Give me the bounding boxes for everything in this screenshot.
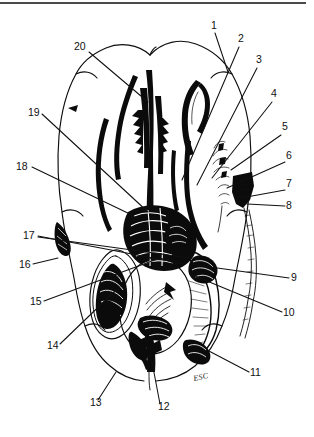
leader-line-16 [33,258,58,264]
leader-line-10 [190,274,282,312]
leader-line-5 [231,135,281,170]
leader-line-11 [207,350,249,372]
left-margin-fragment [55,222,71,256]
label-number-1[interactable]: 1 [211,19,217,31]
leader-line-12 [152,362,160,404]
label-number-7[interactable]: 7 [286,177,292,189]
label-number-6[interactable]: 6 [286,149,292,161]
central-tissue-mass [123,205,197,271]
label-number-17[interactable]: 17 [23,229,35,241]
leader-line-8 [247,204,285,206]
label-number-9[interactable]: 9 [291,271,297,283]
leader-line-4 [212,102,272,178]
bottom-central-stem [139,336,162,390]
label-number-11[interactable]: 11 [250,366,261,378]
right-lower-tissue [183,252,219,365]
label-number-10[interactable]: 10 [283,306,295,318]
artist-signature: ESC [192,371,210,383]
leader-line-20 [89,52,148,102]
diagram-canvas: 1234567891011121314151617181920 ESC [0,0,314,437]
label-number-19[interactable]: 19 [28,106,40,118]
left-ovoid-organ [90,250,140,339]
leader-line-1 [215,33,228,72]
label-number-15[interactable]: 15 [30,295,42,307]
anatomical-figure: 1234567891011121314151617181920 ESC [0,0,314,437]
leader-line-2 [182,47,239,180]
label-number-12[interactable]: 12 [158,400,170,412]
leader-line-6 [227,162,285,188]
label-number-13[interactable]: 13 [90,396,102,408]
label-number-4[interactable]: 4 [271,87,277,99]
label-number-5[interactable]: 5 [282,120,288,132]
label-number-8[interactable]: 8 [286,199,292,211]
label-number-3[interactable]: 3 [256,53,262,65]
label-number-14[interactable]: 14 [47,339,59,351]
label-number-20[interactable]: 20 [74,40,86,52]
label-number-18[interactable]: 18 [16,160,28,172]
label-number-2[interactable]: 2 [238,32,244,44]
label-number-16[interactable]: 16 [19,258,31,270]
